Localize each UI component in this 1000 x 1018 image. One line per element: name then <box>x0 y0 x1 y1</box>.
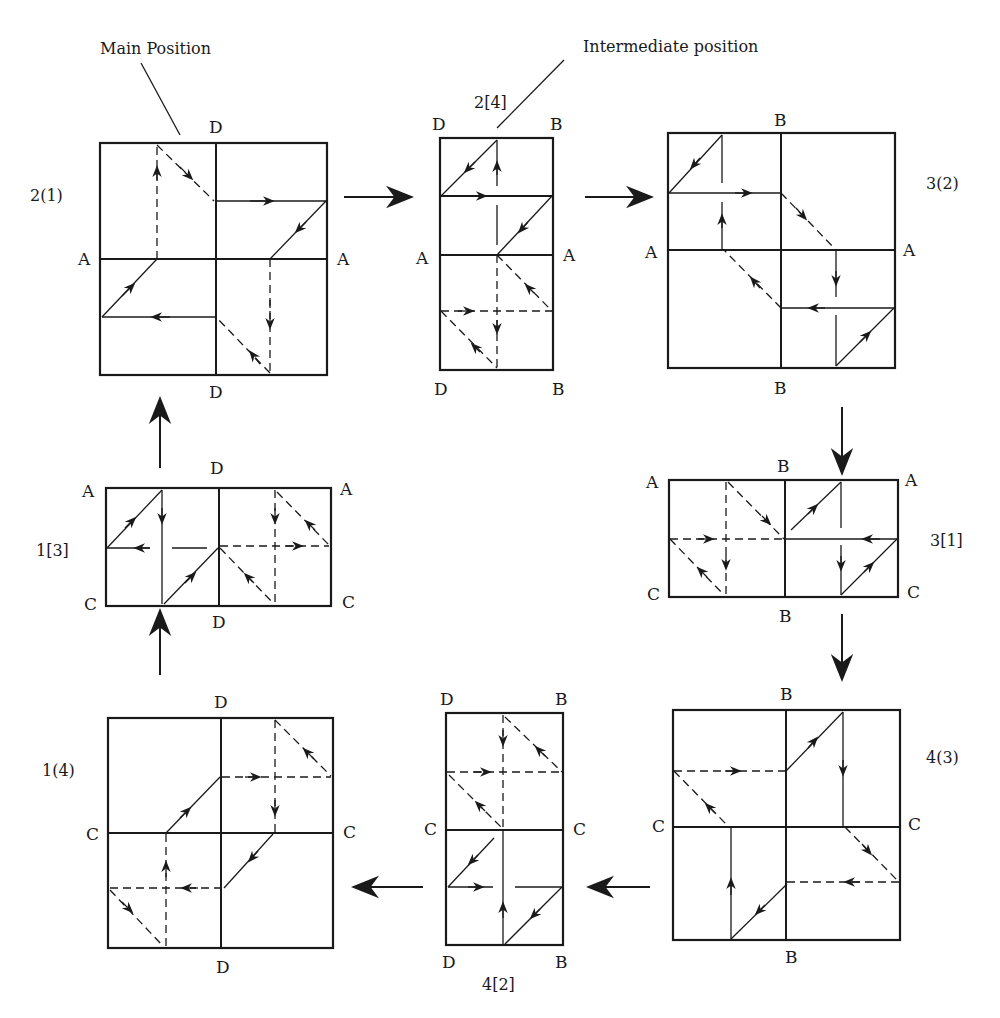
panel-id: 3(2) <box>926 174 959 193</box>
panel-id: 2[4] <box>474 93 507 112</box>
edge-label-right: A <box>336 249 350 269</box>
edge-label-top-right: A <box>339 479 353 499</box>
edge-label-top-right: B <box>550 114 563 134</box>
edge-label-top: D <box>209 117 223 137</box>
edge-label-top: D <box>214 692 228 712</box>
panel-4-2: 4[2] D B C C D B <box>424 689 586 994</box>
edge-label-right: A <box>902 240 916 260</box>
edge-label-bottom: D <box>212 612 226 632</box>
panel-3-2: 3(2) B B A A <box>644 110 959 398</box>
main-position-annotation: Main Position <box>100 39 211 135</box>
flow-arrows <box>160 197 842 887</box>
edge-label-left: C <box>86 824 99 844</box>
panel-id: 2(1) <box>30 186 63 205</box>
main-position-label: Main Position <box>100 39 211 58</box>
edge-label-left: A <box>415 248 429 268</box>
edge-label-bottom: B <box>779 606 792 626</box>
edge-label-bottom-left: D <box>434 379 448 399</box>
panel-id: 4(3) <box>926 748 959 767</box>
intermediate-position-label: Intermediate position <box>583 37 758 56</box>
edge-label-top: D <box>210 458 224 478</box>
panel-id: 1(4) <box>42 761 75 780</box>
edge-label-bottom: B <box>774 378 787 398</box>
panel-1-3: 1[3] D D A A C C <box>36 458 355 632</box>
edge-label-left: A <box>77 249 91 269</box>
panel-id: 1[3] <box>36 541 69 560</box>
main-position-leader-line <box>141 63 180 135</box>
panel-2-4: 2[4] D B A A D B <box>415 93 576 399</box>
edge-label-left: A <box>644 242 658 262</box>
position-cycle-diagram: Main Position Intermediate position 2(1)… <box>0 0 1000 1018</box>
panel-2-1: 2(1) D D A A <box>30 117 350 402</box>
edge-label-bottom: B <box>785 947 798 967</box>
panel-1-4: 1(4) D D C C <box>42 692 356 977</box>
edge-label-bottom: D <box>216 957 230 977</box>
edge-label-bottom-left: D <box>442 952 456 972</box>
edge-label-top-right: B <box>555 689 568 709</box>
edge-label-bottom-right: B <box>555 952 568 972</box>
edge-label-left: C <box>424 819 437 839</box>
edge-label-bottom-left: C <box>647 584 660 604</box>
edge-label-right: C <box>573 819 586 839</box>
edge-label-bottom-right: C <box>342 592 355 612</box>
panel-3-1: 3[1] B B A A C C <box>645 456 963 626</box>
edge-label-bottom-left: C <box>84 594 97 614</box>
panel-id: 4[2] <box>482 975 515 994</box>
edge-label-bottom: D <box>209 382 223 402</box>
panel-id: 3[1] <box>930 531 963 550</box>
intermediate-position-annotation: Intermediate position <box>497 37 758 128</box>
edge-label-top: B <box>774 110 787 130</box>
edge-label-top-left: A <box>81 481 95 501</box>
edge-label-bottom-right: C <box>907 582 920 602</box>
edge-label-left: C <box>652 816 665 836</box>
edge-label-bottom-right: B <box>552 379 565 399</box>
edge-label-top-left: D <box>432 114 446 134</box>
edge-label-top: B <box>777 456 790 476</box>
edge-label-top: B <box>780 684 793 704</box>
panel-4-3: 4(3) B B C C <box>652 684 959 967</box>
edge-label-right: C <box>343 822 356 842</box>
edge-label-top-left: D <box>440 689 454 709</box>
edge-label-top-left: A <box>645 472 659 492</box>
edge-label-right: C <box>908 814 921 834</box>
edge-label-top-right: A <box>904 470 918 490</box>
edge-label-right: A <box>562 245 576 265</box>
